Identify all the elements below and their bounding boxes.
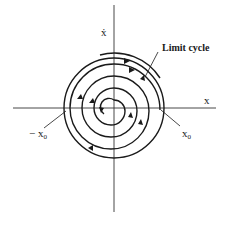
xdot-axis-label: ẋ	[101, 27, 107, 38]
arrow-icon	[128, 112, 133, 118]
arrow-icon	[124, 58, 130, 64]
neg-x0-label: − x0	[29, 128, 47, 141]
pos-x0-subscript: 0	[188, 133, 192, 141]
arrow-icon	[138, 119, 143, 125]
neg-x0-leader	[44, 111, 66, 128]
phase-portrait-diagram	[0, 0, 228, 229]
pos-x0-label: x0	[182, 128, 191, 141]
arrow-icon	[88, 145, 93, 151]
inner-spiral	[70, 64, 160, 149]
arrow-icon	[77, 94, 83, 99]
pos-x0-leader	[161, 110, 180, 126]
arrow-icon	[99, 107, 104, 113]
x-axis-label: x	[204, 95, 210, 106]
neg-x0-text: − x	[29, 127, 43, 139]
neg-x0-subscript: 0	[43, 133, 47, 141]
arrow-icon	[89, 98, 95, 103]
limit-cycle-label: Limit cycle	[162, 43, 209, 53]
